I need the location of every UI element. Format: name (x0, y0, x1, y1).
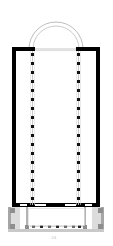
colonnade-right (77, 51, 80, 205)
column-marker (31, 53, 34, 57)
floor-plan-drawing (0, 0, 113, 246)
apse-opening-threshold (35, 48, 76, 49)
narthex-column-marker (32, 225, 35, 228)
column-marker (31, 107, 34, 111)
nave-wall-left (12, 47, 16, 207)
narthex-column-marker (78, 225, 81, 228)
narthex-wall-bottom (8, 229, 104, 232)
column-marker (31, 62, 34, 66)
column-marker (77, 62, 80, 66)
column-marker (31, 98, 34, 102)
column-marker (31, 143, 34, 147)
column-marker (31, 125, 34, 129)
narthex-column-marker (56, 225, 59, 228)
column-marker (77, 170, 80, 174)
nave-door-gap-1 (20, 204, 27, 207)
nave-door-gap-4 (85, 204, 92, 207)
figure-caption: 24 (47, 236, 61, 240)
column-marker (31, 71, 34, 75)
column-marker (31, 80, 34, 84)
column-marker (77, 188, 80, 192)
column-marker (77, 197, 80, 201)
column-marker (31, 116, 34, 120)
column-marker (31, 152, 34, 156)
colonnade-left (31, 51, 34, 205)
column-marker (31, 197, 34, 201)
column-marker (77, 125, 80, 129)
column-marker (77, 107, 80, 111)
column-marker (77, 179, 80, 183)
column-marker (77, 134, 80, 138)
column-marker (77, 80, 80, 84)
nave-wall-right (96, 47, 100, 207)
column-marker (77, 98, 80, 102)
column-marker (31, 188, 34, 192)
narthex-column-marker (72, 225, 75, 228)
column-marker (77, 71, 80, 75)
column-marker (31, 179, 34, 183)
narthex-corner-pier (98, 224, 103, 229)
column-marker (77, 143, 80, 147)
narthex-corner-pier (98, 208, 103, 213)
column-marker (31, 170, 34, 174)
column-marker (77, 161, 80, 165)
column-marker (77, 89, 80, 93)
nave-door-gap-2 (35, 204, 46, 207)
column-marker (77, 53, 80, 57)
narthex-column-marker (64, 225, 67, 228)
floor-plan-figure: 24 (0, 0, 113, 246)
column-marker (31, 161, 34, 165)
column-marker (77, 152, 80, 156)
narthex-corner-pier (10, 224, 15, 229)
nave-door-gap-3 (65, 204, 76, 207)
column-marker (31, 134, 34, 138)
column-marker (31, 89, 34, 93)
narthex-column-marker (40, 225, 43, 228)
narthex-column-marker (48, 225, 51, 228)
narthex-corner-pier (10, 208, 15, 213)
column-marker (77, 116, 80, 120)
